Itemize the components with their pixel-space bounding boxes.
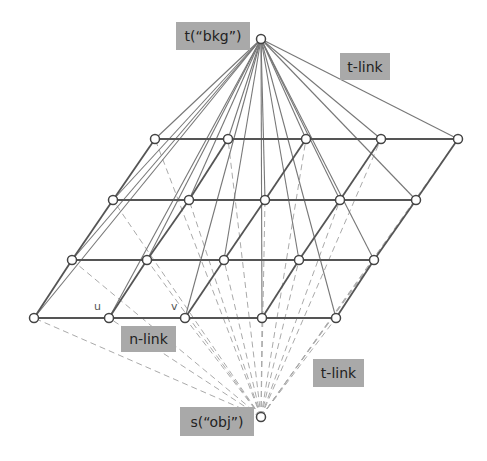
s-link-edge bbox=[261, 260, 374, 417]
terminal-t-node bbox=[257, 35, 266, 44]
n-link-edge bbox=[189, 139, 228, 200]
s-link-edge bbox=[224, 260, 261, 417]
n-link-edge bbox=[265, 139, 306, 200]
n-link-edge bbox=[374, 200, 416, 260]
node-u-label: u bbox=[94, 300, 101, 313]
pixel-node bbox=[295, 256, 304, 265]
pixel-node bbox=[261, 196, 270, 205]
t-link-edge bbox=[147, 39, 261, 260]
terminal-t-label: t(“bkg”) bbox=[176, 22, 250, 50]
terminal-s-label: s(“obj”) bbox=[180, 407, 254, 436]
pixel-node bbox=[105, 314, 114, 323]
n-link-edge bbox=[109, 260, 147, 318]
t-link-edge bbox=[189, 39, 261, 200]
s-link-edge bbox=[155, 139, 261, 417]
terminal-s-node bbox=[257, 413, 266, 422]
pixel-node bbox=[336, 196, 345, 205]
node-v-label: v bbox=[171, 300, 178, 313]
pixel-node bbox=[181, 314, 190, 323]
pixel-node bbox=[332, 314, 341, 323]
s-link-edge bbox=[261, 318, 262, 417]
n-link-edge bbox=[72, 200, 113, 260]
pixel-node bbox=[370, 256, 379, 265]
n-link-edge bbox=[224, 200, 265, 260]
n-link-edge bbox=[34, 260, 72, 318]
t-link-edge bbox=[72, 39, 261, 260]
pixel-node bbox=[258, 314, 267, 323]
s-link-edge bbox=[261, 260, 299, 417]
t-link-label-top: t-link bbox=[340, 53, 390, 80]
pixel-node bbox=[68, 256, 77, 265]
n-link-edge bbox=[416, 139, 458, 200]
t-link-edge bbox=[34, 39, 261, 318]
pixel-node bbox=[220, 256, 229, 265]
pixel-node bbox=[109, 196, 118, 205]
pixel-node bbox=[30, 314, 39, 323]
pixel-node bbox=[151, 135, 160, 144]
t-link-edge bbox=[155, 39, 261, 139]
n-link-edge bbox=[336, 260, 374, 318]
pixel-node bbox=[454, 135, 463, 144]
pixel-node bbox=[377, 135, 386, 144]
t-link-edge bbox=[261, 39, 336, 318]
pixel-node bbox=[302, 135, 311, 144]
pixel-node bbox=[143, 256, 152, 265]
pixel-node bbox=[224, 135, 233, 144]
graph-svg bbox=[0, 0, 487, 461]
n-link-edge bbox=[299, 200, 340, 260]
s-link-edge bbox=[189, 200, 261, 417]
pixel-node bbox=[185, 196, 194, 205]
pixel-node bbox=[412, 196, 421, 205]
n-link-edge bbox=[262, 260, 299, 318]
n-link-edge bbox=[340, 139, 381, 200]
n-link-label: n-link bbox=[121, 326, 176, 352]
graph-cut-diagram: t(“bkg”) t-link n-link t-link s(“obj”) u… bbox=[0, 0, 487, 461]
t-link-label-bottom: t-link bbox=[313, 359, 364, 387]
